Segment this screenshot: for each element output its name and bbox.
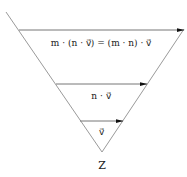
top-equation-label: m · (n · v⃗) = (m · n) · v⃗ — [51, 39, 151, 48]
middle-label: n · v⃗ — [91, 92, 110, 101]
diagram-canvas — [0, 0, 187, 177]
bottom-label: v⃗ — [99, 128, 104, 137]
left-edge — [6, 12, 102, 152]
vertex-label: Z — [98, 160, 106, 171]
